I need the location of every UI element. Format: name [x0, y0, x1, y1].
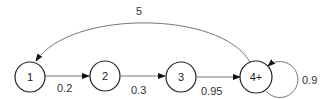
- node-1: 1: [15, 62, 45, 92]
- node-label: 1: [27, 71, 33, 83]
- edge-label-2-3: 0.3: [131, 84, 146, 96]
- node-label: 4+: [250, 71, 263, 83]
- node-3: 3: [166, 62, 196, 92]
- node-label: 2: [102, 70, 108, 82]
- edge-label-3-4: 0.95: [201, 85, 222, 97]
- node-label: 3: [178, 71, 184, 83]
- node-2: 2: [90, 61, 120, 91]
- edge-label-self-loop: 0.9: [302, 74, 317, 86]
- edge-4-to-1: [36, 23, 250, 62]
- state-diagram: 1 2 3 4+ 0.2 0.3 0.95 0.9 5: [0, 0, 333, 99]
- node-4-plus: 4+: [240, 61, 272, 93]
- edge-label-1-2: 0.2: [57, 82, 72, 94]
- edge-label-4-to-1: 5: [136, 5, 142, 17]
